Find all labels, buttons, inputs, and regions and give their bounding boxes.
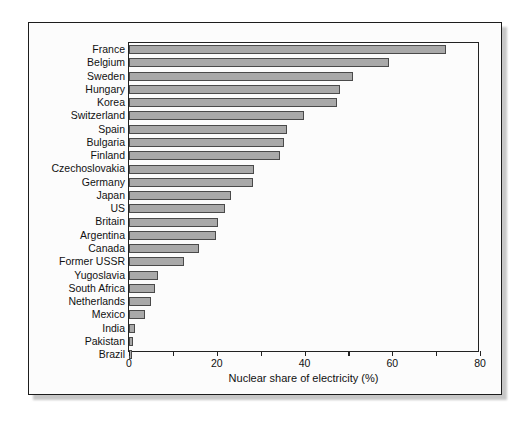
- bar: [129, 244, 199, 253]
- x-tick-mark: [392, 351, 393, 356]
- bar-row: Japan: [129, 189, 478, 202]
- category-label: Argentina: [80, 229, 125, 242]
- category-label: Korea: [97, 96, 125, 109]
- category-label: Former USSR: [59, 255, 125, 268]
- category-label: Sweden: [87, 70, 125, 83]
- bar-row: Finland: [129, 149, 478, 162]
- category-label: South Africa: [68, 282, 125, 295]
- bar: [129, 111, 304, 120]
- category-label: Switzerland: [71, 109, 125, 122]
- bar-row: Yugoslavia: [129, 269, 478, 282]
- category-label: France: [92, 43, 125, 56]
- bar-row: Pakistan: [129, 335, 478, 348]
- x-tick-label: 80: [474, 357, 486, 369]
- bar: [129, 191, 231, 200]
- bar: [129, 257, 184, 266]
- category-label: Mexico: [92, 308, 125, 321]
- category-label: Netherlands: [68, 295, 125, 308]
- bar: [129, 151, 280, 160]
- category-label: Spain: [98, 123, 125, 136]
- bar-row: Mexico: [129, 308, 478, 321]
- bar-row: Argentina: [129, 229, 478, 242]
- bar-row: Hungary: [129, 83, 478, 96]
- x-axis-title: Nuclear share of electricity (%): [129, 372, 478, 384]
- bar-row: Spain: [129, 123, 478, 136]
- category-label: Yugoslavia: [74, 269, 125, 282]
- bar: [129, 45, 446, 54]
- category-label: Belgium: [87, 56, 125, 69]
- bar: [129, 324, 135, 333]
- bar-row: India: [129, 322, 478, 335]
- category-label: Pakistan: [85, 335, 125, 348]
- bar: [129, 218, 218, 227]
- bar: [129, 284, 155, 293]
- x-tick-label: 40: [299, 357, 311, 369]
- bar: [129, 310, 145, 319]
- plot-area: FranceBelgiumSwedenHungaryKoreaSwitzerla…: [128, 42, 479, 352]
- category-label: US: [110, 202, 125, 215]
- category-label: Japan: [96, 189, 125, 202]
- category-label: Bulgaria: [86, 136, 125, 149]
- bar-row: Korea: [129, 96, 478, 109]
- bar: [129, 337, 133, 346]
- x-tick-label: 60: [386, 357, 398, 369]
- x-tick-mark: [436, 351, 437, 356]
- figure-page: FranceBelgiumSwedenHungaryKoreaSwitzerla…: [0, 0, 529, 421]
- bar-row: US: [129, 202, 478, 215]
- bar-row: Bulgaria: [129, 136, 478, 149]
- bar: [129, 98, 337, 107]
- category-label: Finland: [91, 149, 125, 162]
- x-tick-label: 0: [126, 357, 132, 369]
- bar-row: Canada: [129, 242, 478, 255]
- x-tick-mark: [261, 351, 262, 356]
- bar: [129, 85, 340, 94]
- category-label: Britain: [95, 215, 125, 228]
- bar-row: France: [129, 43, 478, 56]
- category-label: India: [102, 322, 125, 335]
- x-tick-mark: [129, 351, 130, 356]
- bar-row: Netherlands: [129, 295, 478, 308]
- bar-row: South Africa: [129, 282, 478, 295]
- bar: [129, 125, 287, 134]
- bar: [129, 165, 254, 174]
- bar: [129, 58, 389, 67]
- figure-panel: FranceBelgiumSwedenHungaryKoreaSwitzerla…: [28, 22, 502, 395]
- bar-row: Britain: [129, 215, 478, 228]
- category-label: Germany: [82, 176, 125, 189]
- bar: [129, 271, 158, 280]
- bar-row: Switzerland: [129, 109, 478, 122]
- category-label: Hungary: [85, 83, 125, 96]
- bar-series: FranceBelgiumSwedenHungaryKoreaSwitzerla…: [129, 43, 478, 361]
- bar: [129, 231, 216, 240]
- category-label: Czechoslovakia: [51, 162, 125, 175]
- category-label: Brazil: [99, 348, 125, 361]
- bar-row: Czechoslovakia: [129, 162, 478, 175]
- x-tick-label: 20: [211, 357, 223, 369]
- x-tick-mark: [348, 351, 349, 356]
- x-tick-mark: [305, 351, 306, 356]
- bar-row: Former USSR: [129, 255, 478, 268]
- bar-row: Germany: [129, 176, 478, 189]
- x-tick-mark: [217, 351, 218, 356]
- bar: [129, 204, 225, 213]
- x-tick-mark: [480, 351, 481, 356]
- category-label: Canada: [88, 242, 125, 255]
- bar: [129, 72, 353, 81]
- bar-row: Sweden: [129, 70, 478, 83]
- bar: [129, 138, 284, 147]
- bar: [129, 297, 151, 306]
- x-tick-mark: [173, 351, 174, 356]
- bar: [129, 178, 253, 187]
- bar-row: Belgium: [129, 56, 478, 69]
